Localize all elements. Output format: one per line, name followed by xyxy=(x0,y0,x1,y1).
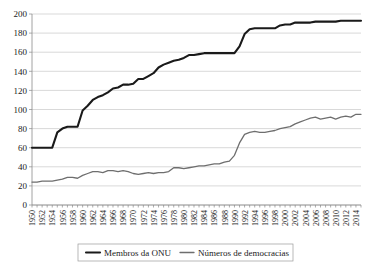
x-tick-label-1956: 1956 xyxy=(59,210,68,226)
y-tick-label-40: 40 xyxy=(18,162,28,172)
x-tick-label-1992: 1992 xyxy=(241,210,250,226)
x-tick-label-1968: 1968 xyxy=(119,210,128,226)
y-tick-label-160: 160 xyxy=(14,47,28,57)
legend-label-0: Membros da ONU xyxy=(104,248,171,258)
x-tick-label-2008: 2008 xyxy=(322,210,331,226)
x-tick-label-1990: 1990 xyxy=(231,210,240,226)
line-chart: 020406080100120140160180200 195019521954… xyxy=(0,0,369,269)
x-tick-label-2014: 2014 xyxy=(352,210,361,226)
x-tick-label-1974: 1974 xyxy=(150,210,159,226)
x-tick-label-2012: 2012 xyxy=(342,210,351,226)
chart-background xyxy=(0,0,369,269)
chart-canvas: 020406080100120140160180200 195019521954… xyxy=(0,0,369,269)
x-tick-label-1962: 1962 xyxy=(89,210,98,226)
x-tick-label-1966: 1966 xyxy=(109,210,118,226)
x-tick-label-1988: 1988 xyxy=(221,210,230,226)
x-tick-label-2010: 2010 xyxy=(332,210,341,226)
x-tick-label-1984: 1984 xyxy=(200,210,209,226)
y-tick-label-0: 0 xyxy=(23,200,28,210)
x-tick-label-1972: 1972 xyxy=(140,210,149,226)
chart-legend: Membros da ONUNúmeros de democracias xyxy=(78,244,293,261)
x-tick-label-1986: 1986 xyxy=(210,210,219,226)
x-tick-label-1954: 1954 xyxy=(48,210,57,226)
y-tick-label-100: 100 xyxy=(14,105,28,115)
x-tick-label-1980: 1980 xyxy=(180,210,189,226)
y-tick-label-180: 180 xyxy=(14,28,28,38)
x-tick-label-2002: 2002 xyxy=(291,210,300,226)
x-tick-label-1950: 1950 xyxy=(28,210,37,226)
y-tick-label-200: 200 xyxy=(14,9,28,19)
y-tick-label-140: 140 xyxy=(14,67,28,77)
legend-label-1: Números de democracias xyxy=(198,248,289,258)
x-tick-label-2004: 2004 xyxy=(302,210,311,226)
x-tick-label-1982: 1982 xyxy=(190,210,199,226)
x-tick-label-1964: 1964 xyxy=(99,210,108,226)
x-tick-label-1958: 1958 xyxy=(69,210,78,226)
x-tick-label-2006: 2006 xyxy=(312,210,321,226)
x-tick-label-1994: 1994 xyxy=(251,210,260,226)
x-tick-label-1976: 1976 xyxy=(160,210,169,226)
y-tick-label-80: 80 xyxy=(18,124,28,134)
y-tick-label-60: 60 xyxy=(18,143,28,153)
x-tick-label-1952: 1952 xyxy=(38,210,47,226)
y-tick-label-20: 20 xyxy=(18,181,28,191)
x-tick-label-2000: 2000 xyxy=(281,210,290,226)
y-tick-label-120: 120 xyxy=(14,86,28,96)
x-tick-label-1960: 1960 xyxy=(79,210,88,226)
x-tick-label-1970: 1970 xyxy=(129,210,138,226)
x-tick-label-1996: 1996 xyxy=(261,210,270,226)
x-tick-label-1998: 1998 xyxy=(271,210,280,226)
x-tick-label-1978: 1978 xyxy=(170,210,179,226)
